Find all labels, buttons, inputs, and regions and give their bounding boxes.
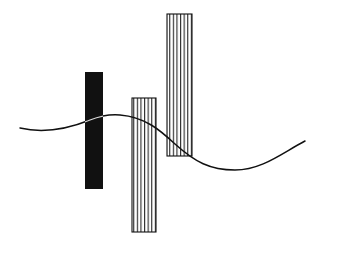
solid-bar: [85, 72, 103, 189]
hatched-bar-tall: [167, 14, 192, 156]
wave-curve: [20, 115, 305, 170]
abstract-bars-and-wave-figure: [0, 0, 361, 261]
wave-curve-over-solid-bar: [20, 115, 305, 170]
diagram-canvas: [0, 0, 361, 261]
